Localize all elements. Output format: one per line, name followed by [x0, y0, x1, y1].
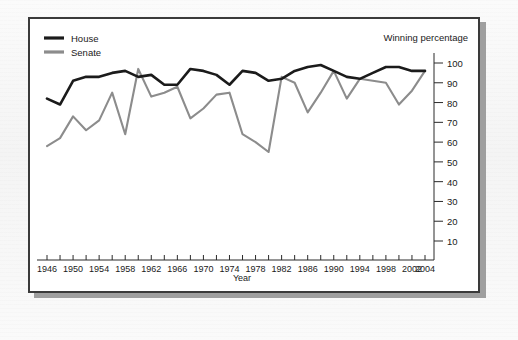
- legend-label-house: House: [71, 33, 98, 44]
- series-layer: [47, 65, 425, 152]
- x-tick-label: 1982: [272, 264, 292, 274]
- x-tick-label: 1966: [167, 264, 187, 274]
- y-tick-label: 50: [447, 157, 458, 168]
- x-tick-label: 1994: [350, 264, 370, 274]
- x-tick-label: 1954: [89, 264, 109, 274]
- x-tick-label: 1958: [115, 264, 135, 274]
- chart-legend: House Senate: [44, 33, 101, 58]
- series-line-senate: [47, 69, 425, 152]
- x-tick-label: 1990: [324, 264, 344, 274]
- x-tick-label: 2004: [415, 264, 435, 274]
- legend-label-senate: Senate: [71, 47, 101, 58]
- y-tick-label: 90: [447, 78, 458, 89]
- x-tick-label: 1998: [376, 264, 396, 274]
- figure-canvas: House Senate Winning percentage 10203040…: [0, 0, 518, 340]
- series-line-house: [47, 65, 425, 105]
- x-axis: 1946195019541958196219661970197419781982…: [37, 255, 435, 274]
- y-tick-label: 40: [447, 177, 458, 188]
- chart-panel: House Senate Winning percentage 10203040…: [28, 17, 480, 293]
- x-tick-label: 1970: [193, 264, 213, 274]
- x-tick-label: 1962: [141, 264, 161, 274]
- line-chart: House Senate Winning percentage 10203040…: [30, 19, 478, 291]
- y-tick-label: 30: [447, 196, 458, 207]
- y-tick-label: 60: [447, 137, 458, 148]
- y-tick-label: 80: [447, 98, 458, 109]
- y-tick-label: 10: [447, 236, 458, 247]
- x-tick-label: 1946: [37, 264, 57, 274]
- chart-header-title: Winning percentage: [384, 32, 469, 43]
- x-axis-title: Year: [233, 273, 251, 283]
- y-tick-label: 100: [447, 58, 463, 69]
- x-tick-label: 1986: [298, 264, 318, 274]
- x-tick-label: 1950: [63, 264, 83, 274]
- y-axis: 102030405060708090100: [434, 53, 463, 260]
- y-tick-label: 20: [447, 216, 458, 227]
- y-tick-label: 70: [447, 117, 458, 128]
